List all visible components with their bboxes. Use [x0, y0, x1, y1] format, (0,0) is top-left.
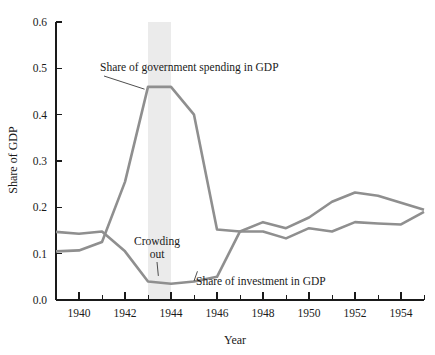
x-axis-tick-labels: 19401942194419461948195019521954 [68, 307, 413, 319]
y-axis-ticks [56, 22, 62, 300]
x-tick-label: 1942 [114, 307, 137, 319]
chart-figure: 0.00.10.20.30.40.50.6 194019421944194619… [0, 0, 435, 355]
y-tick-label: 0.2 [33, 201, 48, 213]
x-tick-label: 1952 [344, 307, 367, 319]
government-leader-line [104, 76, 145, 89]
y-tick-label: 0.6 [33, 16, 48, 28]
y-tick-label: 0.3 [33, 155, 48, 167]
x-tick-label: 1940 [68, 307, 91, 319]
y-tick-label: 0.5 [33, 62, 48, 74]
annotations-group: Share of government spending in GDP Crow… [100, 61, 326, 287]
x-axis-title: Year [224, 333, 246, 347]
y-tick-label: 0.0 [33, 294, 48, 306]
x-axis-ticks [56, 292, 424, 300]
x-tick-label: 1950 [298, 307, 321, 319]
crowding-out-label-line2: out [150, 248, 166, 260]
government-series-label: Share of government spending in GDP [100, 61, 279, 74]
investment-line [56, 212, 424, 284]
line-chart: 0.00.10.20.30.40.50.6 194019421944194619… [0, 0, 435, 355]
x-tick-label: 1948 [252, 307, 275, 319]
series-group [56, 87, 424, 284]
x-tick-label: 1944 [160, 307, 183, 319]
y-axis-tick-labels: 0.00.10.20.30.40.50.6 [33, 16, 48, 306]
y-tick-label: 0.4 [33, 109, 48, 121]
y-axis-title: Share of GDP [6, 126, 20, 194]
y-tick-label: 0.1 [33, 248, 48, 260]
crowding-out-label-line1: Crowding [134, 235, 180, 248]
government-spending-line [56, 87, 424, 251]
x-tick-label: 1946 [206, 307, 229, 319]
x-tick-label: 1954 [390, 307, 413, 319]
investment-series-label: Share of investment in GDP [196, 275, 326, 287]
